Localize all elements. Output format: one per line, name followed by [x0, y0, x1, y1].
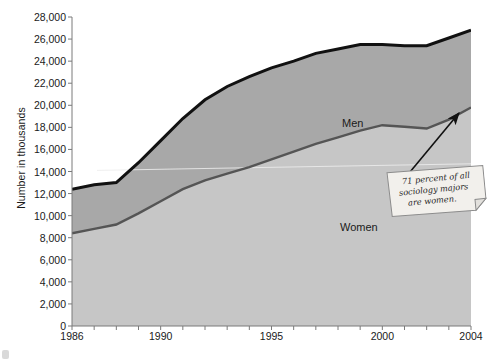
y-tick-label: 24,000 [34, 56, 66, 66]
y-tick-label: 12,000 [34, 189, 66, 199]
y-tick-label: 18,000 [34, 122, 66, 132]
x-tick-label: 1990 [131, 331, 191, 342]
annotation-note: 71 percent of allsociology majorsare wom… [386, 162, 488, 219]
y-tick-label: 6,000 [40, 255, 66, 265]
y-tick-label: 22,000 [34, 78, 66, 88]
y-tick-label: 4,000 [40, 277, 66, 287]
y-tick-label: 26,000 [34, 34, 66, 44]
x-tick-label: 2004 [441, 331, 492, 342]
series-label-men: Men [342, 117, 363, 129]
y-tick-label: 20,000 [34, 100, 66, 110]
y-tick-label: 14,000 [34, 167, 66, 177]
sociology-majors-area-chart: Number in thousands 02,0004,0006,0008,00… [0, 0, 492, 363]
series-label-women: Women [340, 221, 378, 233]
y-axis-tick-labels: 02,0004,0006,0008,00010,00012,00014,0001… [0, 0, 66, 363]
y-tick-label: 2,000 [40, 299, 66, 309]
y-tick-label: 10,000 [34, 211, 66, 221]
y-tick-label: 8,000 [40, 233, 66, 243]
x-tick-label: 1995 [242, 331, 302, 342]
y-tick-label: 16,000 [34, 144, 66, 154]
x-tick-label: 2000 [352, 331, 412, 342]
y-tick-label: 28,000 [34, 12, 66, 22]
x-tick-label: 1986 [42, 331, 102, 342]
scan-edge-artifact [2, 350, 9, 359]
